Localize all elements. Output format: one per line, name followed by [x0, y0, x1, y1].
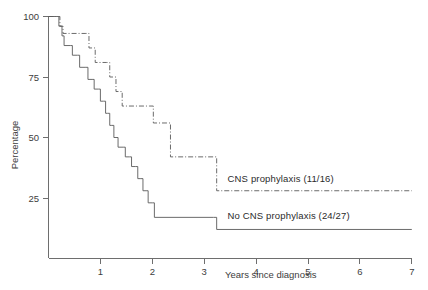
x-tick-label-1: 1	[98, 266, 103, 277]
kaplan-meier-plot: 100 75 50 25 1 2 3 4 5 6 7 Percentage Ye…	[0, 0, 428, 290]
y-axis-ticks: 100 75 50 25	[23, 11, 48, 204]
x-tick-label-3: 3	[202, 266, 207, 277]
x-axis-title: Years since diagnosis	[225, 269, 317, 280]
y-axis-title: Percentage	[9, 121, 20, 170]
series-line-cns-prophylaxis	[49, 17, 412, 191]
survival-chart-figure: 100 75 50 25 1 2 3 4 5 6 7 Percentage Ye…	[0, 0, 428, 290]
x-tick-label-2: 2	[150, 266, 155, 277]
series-label-cns-prophylaxis: CNS prophylaxis (11/16)	[228, 173, 334, 184]
y-tick-label-50: 50	[28, 132, 39, 143]
y-tick-label-75: 75	[28, 72, 39, 83]
y-tick-label-25: 25	[28, 193, 39, 204]
series-label-no-cns-prophylaxis: No CNS prophylaxis (24/27)	[228, 210, 350, 221]
x-tick-label-6: 6	[357, 266, 362, 277]
series-line-no-cns-prophylaxis	[49, 17, 412, 230]
x-tick-label-7: 7	[409, 266, 414, 277]
y-tick-label-100: 100	[23, 11, 39, 22]
